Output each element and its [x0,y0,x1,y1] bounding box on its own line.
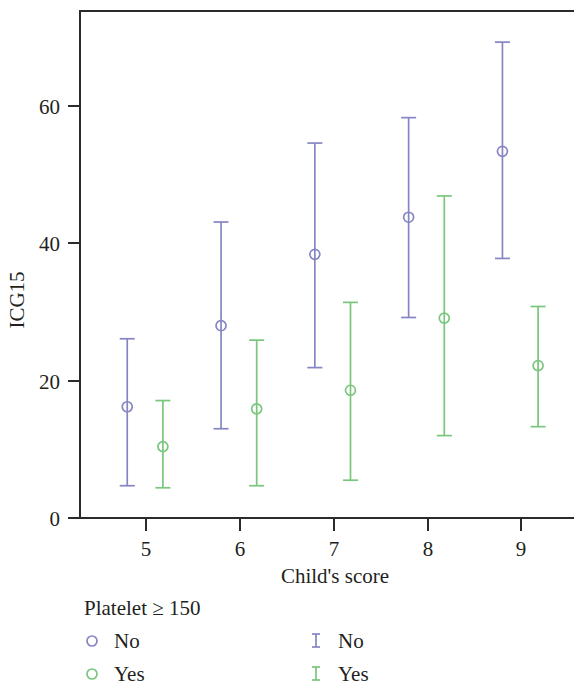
legend-layer: NoYesNoYes [87,629,369,686]
error-bar-yes-8 [437,196,452,436]
x-axis-title: Child's score [281,564,389,588]
chart-figure: 60 40 20 0 5 6 7 8 9 Child's score ICG15… [0,0,574,687]
legend-entry-open-circle-yes[interactable]: Yes [87,662,145,686]
legend-label: No [114,629,140,653]
legend-label: Yes [338,662,369,686]
x-axis-ticks [146,518,521,531]
legend-entry-i-bar-yes[interactable]: Yes [312,662,369,686]
y-tick-label-20: 20 [39,370,60,394]
x-axis-tick-labels: 5 6 7 8 9 [141,537,527,561]
legend-circle-icon [87,636,97,646]
error-bar-no-9 [495,42,510,258]
y-tick-label-40: 40 [39,232,60,256]
series-group-no [120,42,510,486]
error-bar-no-5 [120,339,135,486]
x-tick-label-5: 5 [141,537,152,561]
y-axis-ticks [68,106,80,518]
plot-frame [80,11,574,518]
x-tick-label-9: 9 [516,537,527,561]
legend-circle-icon [87,669,97,679]
error-bar-no-6 [214,222,229,429]
error-bar-no-8 [401,118,416,318]
series-group-yes [155,196,545,488]
legend-entry-open-circle-no[interactable]: No [87,629,140,653]
x-tick-label-6: 6 [235,537,246,561]
error-bar-yes-9 [531,306,546,426]
y-axis-title: ICG15 [5,271,29,328]
x-tick-label-7: 7 [329,537,340,561]
legend-label: Yes [114,662,145,686]
legend-label: No [338,629,364,653]
error-bar-yes-5 [155,401,170,488]
x-tick-label-8: 8 [423,537,434,561]
y-axis-tick-labels: 60 40 20 0 [39,95,60,531]
error-bar-yes-7 [343,302,358,480]
y-tick-label-0: 0 [50,507,61,531]
error-bar-no-7 [307,143,322,368]
data-series-layer [120,42,546,488]
error-bar-yes-6 [249,340,264,486]
legend-entry-i-bar-no[interactable]: No [312,629,364,653]
legend-title: Platelet ≥ 150 [84,596,201,620]
errorbar-plot: 60 40 20 0 5 6 7 8 9 Child's score ICG15… [0,0,574,687]
y-tick-label-60: 60 [39,95,60,119]
